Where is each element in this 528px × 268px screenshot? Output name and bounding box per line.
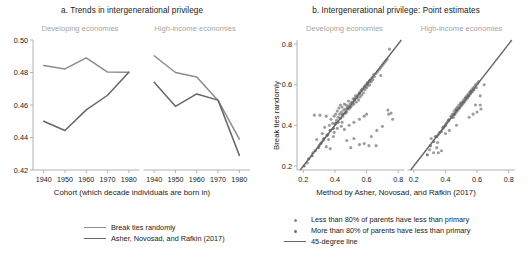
panel-b-title: b. Intergenerational privilege: Point es…	[264, 6, 528, 15]
figure-root: ergenerational privilege a. Trends in in…	[0, 0, 528, 268]
svg-text:0.2: 0.2	[298, 175, 308, 184]
svg-text:1980: 1980	[121, 175, 137, 184]
svg-text:0.8: 0.8	[393, 175, 403, 184]
svg-text:0.48: 0.48	[14, 68, 28, 77]
panel-b-legend: Less than 80% of parents have less than …	[284, 214, 470, 247]
legend-label: Less than 80% of parents have less than …	[311, 215, 469, 224]
legend-dot-icon	[284, 226, 306, 235]
svg-text:0.8: 0.8	[282, 40, 292, 49]
svg-text:0.6: 0.6	[472, 175, 482, 184]
legend-line-icon	[84, 227, 106, 228]
svg-text:1970: 1970	[100, 175, 116, 184]
svg-text:1960: 1960	[189, 175, 205, 184]
panel-a-plot-area: 0.420.440.460.480.5019401950196019701980…	[0, 34, 264, 234]
svg-text:0.2: 0.2	[409, 175, 419, 184]
svg-text:0.42: 0.42	[14, 166, 28, 175]
panel-a-facet-label-developing: Developing economies	[30, 24, 130, 33]
legend-label: Asher, Novosad, and Rafkin (2017)	[111, 234, 225, 243]
panel-b-plot-area: 0.20.40.60.80.20.40.60.80.20.40.60.8	[264, 34, 528, 234]
svg-text:0.8: 0.8	[504, 175, 514, 184]
legend-dot-icon	[284, 215, 306, 224]
panel-a-xaxis-title: Cohort (which decade individuals are bor…	[0, 188, 264, 197]
panel-a-legend: Break ties randomly Asher, Novosad, and …	[84, 222, 225, 244]
svg-text:1940: 1940	[146, 175, 162, 184]
svg-text:1950: 1950	[167, 175, 183, 184]
svg-text:0.4: 0.4	[330, 175, 340, 184]
svg-text:1970: 1970	[210, 175, 226, 184]
svg-text:1940: 1940	[36, 175, 52, 184]
legend-label: 45-degree line	[311, 237, 358, 246]
legend-item-less-than-80: Less than 80% of parents have less than …	[284, 214, 470, 225]
legend-item-45-degree-line: 45-degree line	[284, 236, 470, 247]
panel-b-facet-label-high-income: High-income economies	[404, 24, 519, 33]
svg-text:0.44: 0.44	[14, 133, 28, 142]
panel-a-title: a. Trends in intergenerational privilege	[0, 6, 264, 15]
svg-text:0.2: 0.2	[282, 162, 292, 171]
legend-label: Break ties randomly	[111, 223, 175, 232]
legend-item-more-than-80: More than 80% of parents have less than …	[284, 225, 470, 236]
panel-a-trends: a. Trends in intergenerational privilege…	[0, 0, 264, 268]
legend-item-asher: Asher, Novosad, and Rafkin (2017)	[84, 233, 225, 244]
panel-b-xaxis-title: Method by Asher, Novosad, and Rafkin (20…	[264, 188, 528, 197]
panel-b-facet-label-developing: Developing economies	[292, 24, 397, 33]
panel-b-point-estimates: b. Intergenerational privilege: Point es…	[264, 0, 528, 268]
svg-text:0.50: 0.50	[14, 36, 28, 45]
legend-label: More than 80% of parents have less than …	[311, 226, 470, 235]
svg-text:0.46: 0.46	[14, 101, 28, 110]
svg-text:0.6: 0.6	[362, 175, 372, 184]
svg-text:1980: 1980	[231, 175, 247, 184]
svg-text:0.4: 0.4	[440, 175, 450, 184]
svg-text:0.6: 0.6	[282, 80, 292, 89]
legend-item-break-ties: Break ties randomly	[84, 222, 225, 233]
svg-text:1950: 1950	[57, 175, 73, 184]
svg-text:0.4: 0.4	[282, 121, 292, 130]
legend-line-icon	[284, 241, 306, 242]
panel-a-facet-label-high-income: High-income economies	[140, 24, 250, 33]
legend-line-icon	[84, 238, 106, 239]
svg-text:1960: 1960	[78, 175, 94, 184]
